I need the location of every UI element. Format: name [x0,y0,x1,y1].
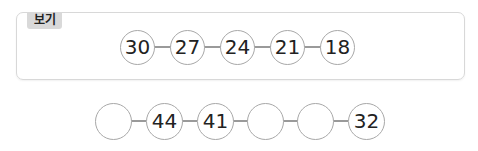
example-circle-2: 27 [170,30,205,65]
example-circle-4: 21 [270,30,305,65]
connector [333,120,348,122]
problem-circle-6: 32 [348,103,385,140]
problem-circle-2: 44 [146,103,183,140]
answer-circle-5[interactable] [297,103,334,140]
connector [131,120,146,122]
problem-circle-3: 41 [197,103,234,140]
connector [233,120,248,122]
example-label: 보기 [27,12,62,29]
example-circle-5: 18 [320,30,355,65]
answer-circle-4[interactable] [247,103,284,140]
answer-circle-1[interactable] [95,103,132,140]
example-circle-3: 24 [220,30,255,65]
example-circle-1: 30 [120,30,155,65]
connector [283,120,298,122]
connector [182,120,197,122]
